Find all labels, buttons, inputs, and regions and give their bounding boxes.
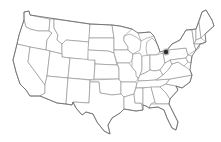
location-dot-icon [164,50,168,54]
state-colorado [68,58,95,80]
state-wyoming [62,40,89,60]
state-borders [13,10,214,134]
location-marker[interactable] [162,48,169,55]
state-kansas [94,64,119,79]
state-mississippi [134,88,143,105]
us-states-map [0,0,221,142]
state-new-mexico [66,78,90,105]
state-north-dakota [89,24,114,38]
